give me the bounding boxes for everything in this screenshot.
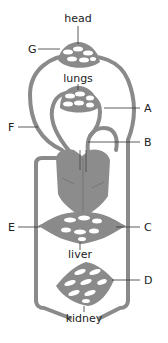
label-kidney: kidney: [66, 312, 103, 325]
label-head: head: [64, 12, 91, 25]
label-e: E: [8, 221, 15, 234]
lungs-capillary-bed: [60, 86, 98, 113]
circulation-diagram: head lungs liver kidney G A F B E C D: [0, 0, 168, 343]
liver-capillary-bed: [38, 212, 126, 244]
label-liver: liver: [68, 248, 92, 261]
label-c: C: [144, 221, 152, 234]
label-f: F: [8, 121, 14, 134]
label-lungs: lungs: [63, 72, 93, 85]
label-a: A: [144, 102, 152, 115]
label-d: D: [144, 274, 152, 287]
label-b: B: [144, 136, 152, 149]
head-capillary-bed: [58, 42, 100, 68]
vessel-b: [88, 128, 117, 152]
kidney-capillary-bed: [56, 262, 114, 306]
heart: [56, 149, 110, 218]
label-g: G: [28, 43, 37, 56]
